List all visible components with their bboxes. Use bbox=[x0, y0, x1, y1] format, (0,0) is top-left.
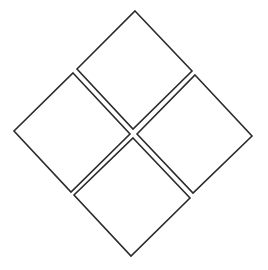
diamond-grid bbox=[0, 0, 268, 270]
diagram-canvas bbox=[0, 0, 268, 270]
